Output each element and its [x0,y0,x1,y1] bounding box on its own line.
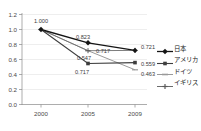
legend-item-japan[interactable]: 日本 [157,43,201,55]
data-label-america-2009: 0.559 [141,61,155,67]
data-label-japan-2005: 0.823 [76,34,90,40]
data-label-america-2005: 0.547 [77,55,91,61]
y-tick-label: 0.4 [8,71,17,78]
data-label-germany-2005: 0.717 [75,69,89,75]
data-label-germany-2009: 0.463 [141,71,155,77]
legend-label-uk: イギリス [173,80,198,86]
legend-item-germany[interactable]: ドイツ [157,66,201,78]
data-label-japan-2009: 0.721 [141,44,155,50]
legend-label-america: アメリカ [173,57,198,63]
y-tick-marks [19,15,22,105]
legend-marker-diamond-icon [157,43,173,54]
legend-label-germany: ドイツ [173,69,192,75]
chart-legend: 日本 アメリカ ドイツ [157,43,201,89]
legend-marker-dash-icon [157,66,173,77]
y-tick-label: 0.6 [8,56,17,63]
legend-marker-cross-icon [157,78,173,89]
legend-marker-square-icon [157,55,173,66]
data-label-uk-2005: 0.717 [96,48,110,54]
y-tick-label: 1.0 [8,26,17,33]
x-tick-label: 2005 [81,110,95,117]
legend-item-uk[interactable]: イギリス [157,78,201,90]
legend-item-america[interactable]: アメリカ [157,55,201,67]
y-tick-label: 0.2 [8,86,17,93]
line-chart: 1.2 1.0 0.8 0.6 0.4 0.2 0.0 2000 2005 20… [0,0,201,131]
x-tick-marks [41,105,135,108]
y-tick-label: 1.2 [8,11,17,18]
y-tick-label: 0.8 [8,41,17,48]
legend-label-japan: 日本 [173,46,186,52]
data-label-origin: 1.000 [34,18,48,24]
x-tick-label: 2009 [128,110,142,117]
gridlines [22,15,147,90]
x-tick-label: 2000 [34,110,48,117]
y-tick-label: 0.0 [8,101,17,108]
